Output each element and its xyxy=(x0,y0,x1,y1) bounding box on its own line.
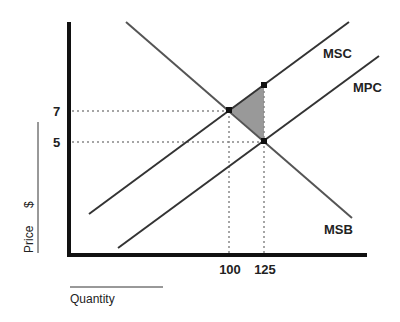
deadweight-loss-area xyxy=(229,85,264,141)
mpc-curve xyxy=(118,56,379,248)
y-axis-unit: $ xyxy=(22,201,36,208)
msb-curve xyxy=(126,22,352,218)
label-msc: MSC xyxy=(323,46,353,61)
msc-curve xyxy=(89,22,349,214)
x-tick-125: 125 xyxy=(254,262,276,277)
y-axis-title: Price xyxy=(22,225,36,253)
externality-chart: MSC MPC MSB 7 5 100 125 Quantity Price $ xyxy=(0,0,400,322)
point-msc-msb xyxy=(226,107,232,113)
y-tick-5: 5 xyxy=(53,135,60,150)
x-tick-100: 100 xyxy=(219,262,241,277)
label-msb: MSB xyxy=(324,222,353,237)
point-mpc-msb xyxy=(261,138,267,144)
label-mpc: MPC xyxy=(353,80,383,95)
y-tick-7: 7 xyxy=(53,104,60,119)
point-msc-125 xyxy=(261,82,267,88)
x-axis-title: Quantity xyxy=(70,292,115,306)
